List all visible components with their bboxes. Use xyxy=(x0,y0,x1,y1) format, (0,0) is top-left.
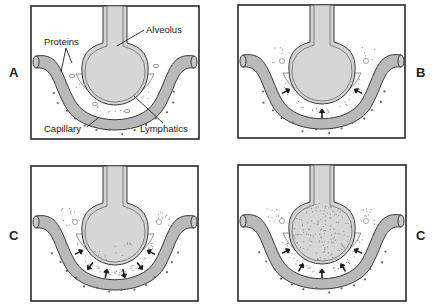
alveolar-fluid-speck xyxy=(320,257,321,258)
extravasated-fluid-speck xyxy=(363,209,364,210)
alveolar-fluid-speck xyxy=(340,212,341,213)
alveolar-fluid-speck xyxy=(293,234,294,235)
capillary-protein-dot xyxy=(59,261,61,263)
interstitial-fluid-speck xyxy=(306,265,307,266)
protein-molecule xyxy=(124,109,129,112)
extravasated-fluid-speck xyxy=(272,62,273,63)
capillary-protein-dot xyxy=(328,132,330,134)
capillary-protein-dot xyxy=(384,251,386,253)
capillary-end-right xyxy=(398,215,404,227)
alveolar-fluid-speck xyxy=(338,233,339,234)
alveolar-fluid-speck xyxy=(325,230,326,231)
extravasated-fluid-speck xyxy=(364,52,365,53)
alveolar-fluid-speck xyxy=(122,255,123,256)
alveolar-fluid-speck xyxy=(310,225,311,226)
interstitial-fluid-speck xyxy=(354,256,355,257)
capillary-protein-dot xyxy=(281,117,283,119)
capillary-protein-dot xyxy=(280,278,282,280)
capillary-protein-dot xyxy=(96,287,98,289)
alveolar-fluid-speck xyxy=(330,214,331,215)
capillary-protein-dot xyxy=(95,129,97,131)
alveolar-fluid-speck xyxy=(325,216,326,217)
alveolar-fluid-speck xyxy=(295,234,296,235)
extravasated-fluid-speck xyxy=(282,49,283,50)
alveolar-fluid-speck xyxy=(306,233,307,234)
capillary-protein-dot xyxy=(292,122,294,124)
alveolar-fluid-speck xyxy=(311,220,312,221)
capillary-protein-dot xyxy=(353,284,355,286)
alveolar-fluid-speck xyxy=(331,239,332,240)
interstitial-fluid-speck xyxy=(326,113,327,114)
alveolar-fluid-speck xyxy=(344,234,345,235)
alveolar-fluid-speck xyxy=(302,223,303,224)
interstitial-fluid-speck xyxy=(291,253,292,254)
alveolar-fluid-speck xyxy=(124,245,125,246)
alveolar-fluid-speck xyxy=(348,223,349,224)
extravasated-fluid-speck xyxy=(166,215,167,216)
extravasated-fluid-speck xyxy=(162,212,163,213)
extravasated-fluid-speck xyxy=(274,221,275,222)
alveolar-fluid-speck xyxy=(323,213,324,214)
capillary-protein-dot xyxy=(75,277,77,279)
alveolar-fluid-speck xyxy=(115,252,116,253)
alveolar-fluid-speck xyxy=(324,247,325,248)
alveolar-fluid-speck xyxy=(127,242,128,243)
alveolar-fluid-speck xyxy=(317,222,318,223)
alveolar-fluid-speck xyxy=(99,251,100,252)
alveolar-fluid-speck xyxy=(344,247,345,248)
extravasated-fluid-speck xyxy=(62,208,63,209)
alveolar-fluid-speck xyxy=(325,224,326,225)
alveolar-fluid-speck xyxy=(296,218,297,219)
extravasated-fluid-speck xyxy=(165,216,166,217)
extravasated-fluid-speck xyxy=(366,208,367,209)
alveolar-fluid-speck xyxy=(324,249,325,250)
interstitial-fluid-speck xyxy=(147,98,148,99)
alveolar-fluid-speck xyxy=(130,243,131,244)
alveolar-fluid-speck xyxy=(318,206,319,207)
interstitial-fluid-speck xyxy=(144,257,145,258)
alveolar-fluid-speck xyxy=(338,208,339,209)
protein-molecule xyxy=(156,219,161,224)
extravasated-fluid-speck xyxy=(362,209,363,210)
protein-molecule xyxy=(279,218,284,223)
interstitial-fluid-speck xyxy=(334,270,335,271)
interstitial-fluid-speck xyxy=(362,239,363,240)
capillary-end-right xyxy=(191,216,197,228)
extravasated-fluid-speck xyxy=(374,220,375,221)
interstitial-fluid-speck xyxy=(293,258,294,259)
extravasated-fluid-speck xyxy=(168,225,169,226)
alveolar-fluid-speck xyxy=(310,235,311,236)
interstitial-fluid-speck xyxy=(119,272,120,273)
alveolar-fluid-speck xyxy=(307,222,308,223)
extravasated-fluid-speck xyxy=(74,211,75,212)
alveolar-fluid-speck xyxy=(319,240,320,241)
callout-lymphatics: Lymphatics xyxy=(140,123,188,134)
capillary-protein-dot xyxy=(272,109,274,111)
capillary-protein-dot xyxy=(301,130,303,132)
interstitial-fluid-speck xyxy=(136,268,137,269)
alveolar-fluid-speck xyxy=(294,236,295,237)
capillary-protein-dot xyxy=(121,133,123,135)
alveolar-fluid-speck xyxy=(306,213,307,214)
alveolar-fluid-speck xyxy=(309,239,310,240)
alveolar-fluid-speck xyxy=(318,242,319,243)
interstitial-fluid-speck xyxy=(145,258,146,259)
extravasated-fluid-speck xyxy=(63,220,64,221)
interstitial-fluid-speck xyxy=(76,87,77,88)
alveolar-fluid-speck xyxy=(323,252,324,253)
interstitial-fluid-speck xyxy=(120,110,121,111)
interstitial-fluid-speck xyxy=(148,248,149,249)
interstitial-fluid-speck xyxy=(302,107,303,108)
extravasated-fluid-speck xyxy=(278,215,279,216)
extravasated-fluid-speck xyxy=(374,224,375,225)
alveolar-fluid-speck xyxy=(98,255,99,256)
alveolar-fluid-speck xyxy=(345,223,346,224)
interstitial-fluid-speck xyxy=(312,110,313,111)
alveolar-fluid-speck xyxy=(342,245,343,246)
alveolar-fluid-speck xyxy=(315,234,316,235)
protein-molecule xyxy=(153,64,158,67)
alveolar-fluid-speck xyxy=(335,233,336,234)
alveolar-fluid-speck xyxy=(318,221,319,222)
interstitial-fluid-speck xyxy=(119,274,120,275)
capillary-protein-dot xyxy=(363,118,365,120)
